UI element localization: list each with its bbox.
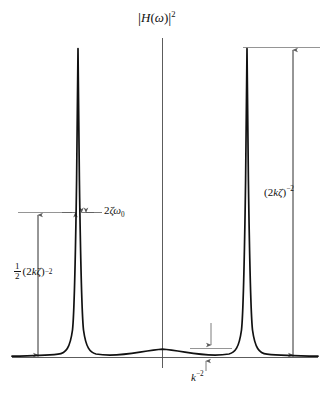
fraction-denominator: 2 — [14, 271, 21, 281]
bandwidth-omega-subscript: 0 — [121, 211, 125, 219]
half-amplitude-label: 1 2 (2kζ)−2 — [14, 262, 52, 282]
response-curve — [12, 49, 318, 357]
plot-title: |H(ω)|2 — [138, 10, 176, 25]
frequency-response-plot — [0, 0, 330, 398]
title-transfer-function: H — [141, 10, 150, 25]
title-omega-symbol: ω — [155, 10, 164, 25]
title-exponent: 2 — [171, 9, 175, 19]
figure-container: |H(ω)|2 (2kζ)−2 1 2 (2kζ)−2 2ζω0 k−2 — [0, 0, 330, 398]
peak-amp-exponent: −2 — [286, 185, 294, 193]
one-half-fraction: 1 2 — [14, 262, 21, 282]
fraction-numerator: 1 — [14, 262, 21, 271]
title-open-bar: | — [138, 10, 141, 26]
bandwidth-omega-symbol: ω — [113, 204, 121, 216]
floor-exponent: −2 — [196, 370, 204, 378]
floor-level-label: k−2 — [191, 372, 204, 383]
peak-amplitude-label: (2kζ)−2 — [264, 187, 294, 198]
bandwidth-label: 2ζω0 — [104, 205, 125, 216]
title-close-bar: | — [168, 10, 171, 26]
